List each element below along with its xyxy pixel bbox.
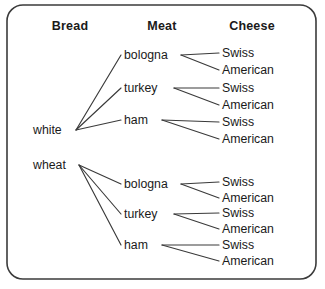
column-headers-layer: BreadMeatCheese <box>52 19 275 33</box>
cheese-node-wheat-bologna-swiss: Swiss <box>222 175 254 189</box>
cheese-node-white-ham-swiss: Swiss <box>222 115 254 129</box>
meat-node-wheat-ham: ham <box>124 238 148 252</box>
bread-node-wheat: wheat <box>32 158 66 172</box>
meat-node-white-turkey: turkey <box>124 81 158 95</box>
meat-node-wheat-turkey: turkey <box>124 207 158 221</box>
cheese-node-wheat-bologna-american: American <box>222 191 274 205</box>
column-header-bread: Bread <box>52 19 88 33</box>
column-header-meat: Meat <box>147 19 177 33</box>
tree-diagram-canvas: BreadMeatCheese whitewheatbolognaturkeyh… <box>0 0 325 289</box>
cheese-node-wheat-ham-american: American <box>222 254 274 268</box>
cheese-node-white-ham-american: American <box>222 132 274 146</box>
cheese-node-white-turkey-american: American <box>222 98 274 112</box>
meat-node-white-bologna: bologna <box>124 48 168 62</box>
sandwich-tree-diagram: BreadMeatCheese whitewheatbolognaturkeyh… <box>0 0 325 289</box>
cheese-node-white-bologna-american: American <box>222 63 274 77</box>
cheese-node-white-bologna-swiss: Swiss <box>222 46 254 60</box>
bread-node-white: white <box>32 123 62 137</box>
cheese-node-wheat-ham-swiss: Swiss <box>222 238 254 252</box>
cheese-node-wheat-turkey-swiss: Swiss <box>222 206 254 220</box>
cheese-node-wheat-turkey-american: American <box>222 222 274 236</box>
meat-node-white-ham: ham <box>124 113 148 127</box>
column-header-cheese: Cheese <box>229 19 275 33</box>
meat-node-wheat-bologna: bologna <box>124 177 168 191</box>
cheese-node-white-turkey-swiss: Swiss <box>222 81 254 95</box>
